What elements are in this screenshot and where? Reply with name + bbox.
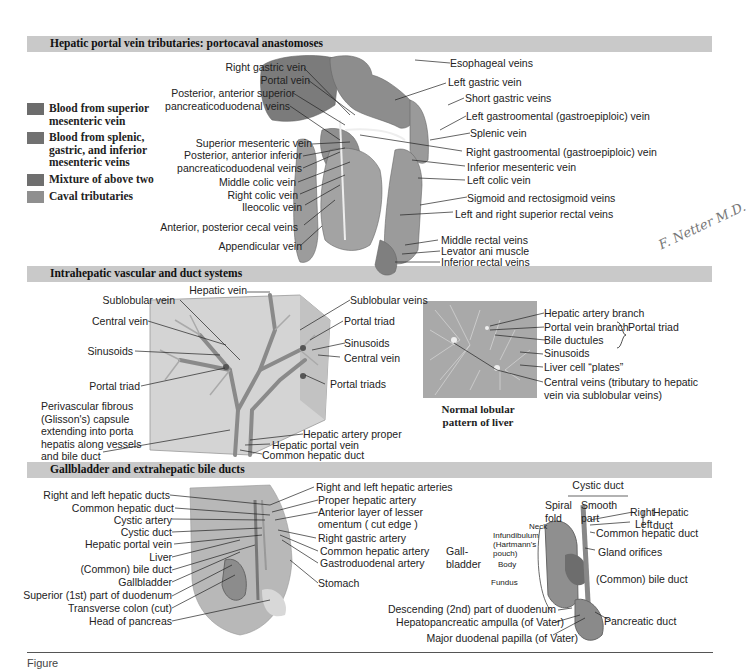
label: Right and left hepatic ducts (43, 489, 170, 502)
label: Gallbladder (118, 576, 172, 589)
label: Stomach (318, 577, 359, 590)
label: Transverse colon (cut) (68, 602, 172, 615)
label: Proper hepatic artery (318, 494, 416, 507)
label: Neck (529, 522, 547, 531)
label: Central vein (92, 315, 148, 328)
label: Cystic duct (121, 526, 172, 539)
legend-item: Caval tributaries (27, 190, 187, 203)
label: (Common) bile duct (596, 573, 688, 586)
label: Gland orifices (598, 546, 662, 559)
label: Left gastroomental (gastroepiploic) vein (466, 110, 650, 123)
figure-caption: Figure (27, 657, 58, 669)
label: Central vein (344, 352, 400, 365)
label: Short gastric veins (465, 92, 551, 105)
label: (Common) bile duct (80, 563, 172, 576)
legend-swatch (27, 103, 44, 115)
label: Middle colic vein (219, 176, 296, 189)
label: Sublobular vein (103, 294, 175, 307)
label: Inferior mesenteric vein (467, 161, 576, 174)
gallbladder-group-label: Gall-bladder (446, 545, 481, 570)
label: Hepatic portal vein (85, 538, 172, 551)
label: Common hepatic duct (596, 527, 698, 540)
legend-label: Mixture of above two (49, 173, 154, 186)
label: Common hepatic duct (262, 449, 364, 462)
label: omentum ( cut edge ) (318, 518, 418, 531)
legend-label: Caval tributaries (49, 190, 133, 203)
label: Sinusoids (87, 345, 133, 358)
label: pancreaticoduodenal veins (177, 162, 302, 175)
label: Right colic vein (227, 189, 298, 202)
label: Sigmoid and rectosigmoid veins (467, 192, 615, 205)
label: Portal vein (260, 74, 310, 87)
spiral-fold-label: Spiralfold (545, 499, 572, 524)
label: Left gastric vein (448, 76, 522, 89)
label: Body (498, 560, 516, 569)
label: Sinusoids (544, 347, 590, 360)
label: Right (630, 506, 655, 519)
label: Common hepatic duct (72, 502, 174, 515)
label: Central veins (tributary to hepatic (544, 376, 698, 389)
legend: Blood from superior mesenteric vein Bloo… (27, 102, 187, 207)
legend-swatch (27, 132, 44, 144)
label: Hepatopancreatic ampulla (of Vater) (396, 616, 564, 629)
label: Portal triads (330, 378, 386, 391)
capsule-label: Perivascular fibrous (Glisson's) capsule… (41, 400, 141, 463)
label: Superior mesenteric vein (196, 137, 312, 150)
label: vein via sublobular veins) (544, 389, 662, 402)
legend-item: Blood from splenic, gastric, and inferio… (27, 131, 187, 169)
label: Left colic vein (467, 174, 531, 187)
label: Posterior, anterior inferior (184, 149, 302, 162)
infundibulum-label: Infundibulum (Hartmann's pouch) (493, 531, 539, 558)
label: Cystic artery (114, 514, 172, 527)
label: Liver (149, 551, 172, 564)
label: Liver cell “plates” (544, 361, 623, 374)
portal-triad-group-label: Portal triad (628, 321, 679, 334)
label: Right gastric vein (225, 61, 306, 74)
label: Right gastric artery (318, 532, 406, 545)
label: Splenic vein (470, 127, 527, 140)
label: Common hepatic artery (320, 545, 429, 558)
figure-rule (27, 652, 713, 653)
label: Inferior rectal veins (441, 256, 530, 269)
label: Left and right superior rectal veins (455, 208, 613, 221)
label: Bile ductules (544, 334, 604, 347)
label: Head of pancreas (89, 615, 172, 628)
legend-label: Blood from splenic, gastric, and inferio… (49, 131, 169, 169)
label: Hepatic vein (189, 284, 247, 297)
label: Anterior, posterior cecal veins (160, 221, 298, 234)
label: Posterior, anterior superior (171, 87, 295, 100)
label: Sinusoids (344, 337, 390, 350)
label: Gastroduodenal artery (320, 557, 424, 570)
legend-item: Mixture of above two (27, 173, 187, 186)
label: Portal triad (344, 315, 395, 328)
label: Anterior layer of lesser (318, 506, 423, 519)
label: Portal vein branch (544, 321, 629, 334)
smooth-part-label: Smoothpart (581, 499, 617, 524)
label: Right and left hepatic arteries (316, 481, 453, 494)
label: Fundus (491, 578, 518, 587)
legend-label: Blood from superior mesenteric vein (49, 102, 169, 127)
label: pancreaticoduodenal veins (165, 100, 290, 113)
label: Hepatic artery branch (544, 307, 644, 320)
label: Ileocolic vein (242, 201, 302, 214)
label: Major duodenal papilla (of Vater) (426, 632, 578, 645)
label: Pancreatic duct (604, 615, 676, 628)
label: Sublobular veins (350, 294, 428, 307)
legend-item: Blood from superior mesenteric vein (27, 102, 187, 127)
lobular-pattern-image (423, 301, 537, 398)
label: Cystic duct (568, 479, 628, 492)
legend-swatch (27, 191, 44, 203)
label: Right gastroomental (gastroepiploic) vei… (466, 146, 657, 159)
label: Esophageal veins (450, 57, 533, 70)
label: Appendicular vein (219, 240, 302, 253)
label: Superior (1st) part of duodenum (23, 589, 172, 602)
legend-swatch (27, 174, 44, 186)
label: Portal triad (89, 380, 140, 393)
label: Descending (2nd) part of duodenum (388, 603, 556, 616)
lobular-caption: Normal lobular pattern of liver (428, 403, 528, 429)
